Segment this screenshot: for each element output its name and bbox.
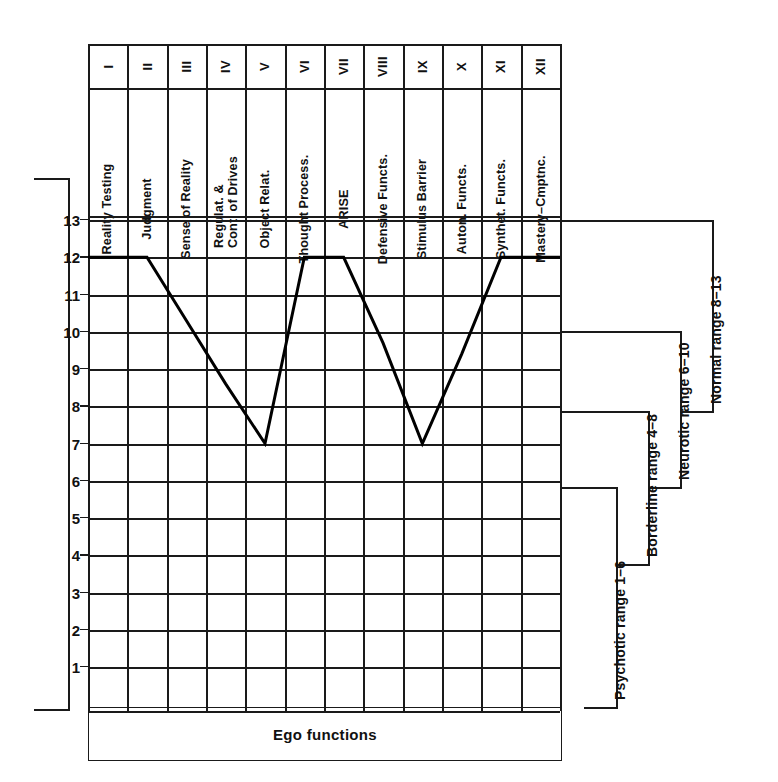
normal-range-label: Normal range 8–13: [708, 275, 724, 404]
borderline-bracket-top-arm: [560, 411, 650, 413]
psychotic-range-label: Psychotic range 1–6: [612, 561, 628, 700]
grid-column-line: [560, 44, 562, 711]
ego-functions-label: Ego functions: [273, 726, 377, 743]
y-axis-tick-4: 4: [52, 547, 80, 564]
y-axis-tick-mark: [80, 368, 88, 369]
y-axis-tick-11: 11: [52, 286, 80, 303]
figure-canvas: 13121110987654321 IIIIIIIVVVIVIIVIIIIXXX…: [0, 0, 778, 782]
y-axis-tick-mark: [80, 517, 88, 518]
y-axis-tick-12: 12: [52, 249, 80, 266]
y-axis-tick-mark: [80, 629, 88, 630]
y-axis-tick-mark: [80, 294, 88, 295]
y-axis-tick-mark: [80, 554, 88, 555]
y-axis-tick-mark: [80, 331, 88, 332]
y-axis-tick-mark: [80, 256, 88, 257]
y-axis-tick-mark: [80, 666, 88, 667]
psychotic-bracket-top-arm: [560, 487, 618, 489]
y-axis-tick-mark: [80, 443, 88, 444]
y-axis-tick-6: 6: [52, 472, 80, 489]
borderline-range-label: Borderline range 4–8: [644, 414, 660, 557]
y-axis-tick-7: 7: [52, 435, 80, 452]
ego-profile-line: [88, 44, 560, 711]
y-axis-tick-1: 1: [52, 659, 80, 676]
neurotic-bracket-top-arm: [560, 331, 682, 333]
y-axis-tick-2: 2: [52, 621, 80, 638]
y-axis-tick-9: 9: [52, 361, 80, 378]
psychotic-bracket-bottom-arm: [584, 707, 618, 709]
ego-functions-axis-box: Ego functions: [88, 707, 562, 761]
y-axis-tick-5: 5: [52, 510, 80, 527]
y-axis-tick-mark: [80, 219, 88, 220]
neurotic-range-label: Neurotic range 6–10: [676, 342, 692, 480]
y-axis-tick-13: 13: [52, 212, 80, 229]
y-axis-tick-mark: [80, 592, 88, 593]
y-axis-tick-mark: [80, 480, 88, 481]
y-axis-tick-8: 8: [52, 398, 80, 415]
y-axis-tick-mark: [80, 405, 88, 406]
y-axis-tick-3: 3: [52, 584, 80, 601]
y-axis-tick-10: 10: [52, 323, 80, 340]
y-axis: 13121110987654321: [34, 0, 80, 782]
normal-bracket-top-arm: [560, 220, 714, 222]
